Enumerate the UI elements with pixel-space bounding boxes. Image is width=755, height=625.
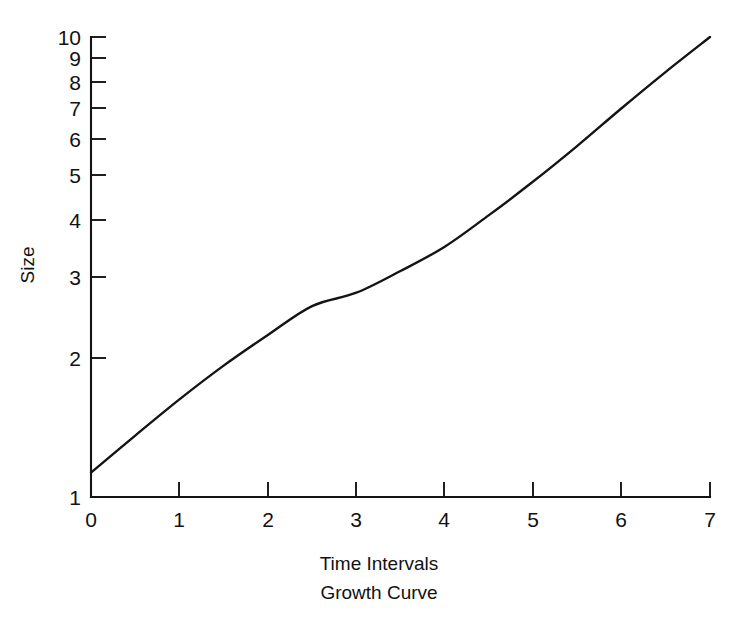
x-tick-label: 3 (350, 508, 362, 531)
y-tick-label: 10 (58, 26, 81, 49)
growth-curve-figure: 10 9 8 7 6 5 4 3 2 1 0 1 2 3 4 5 6 7 Siz… (0, 0, 755, 625)
y-tick-label: 2 (69, 347, 81, 370)
y-tick-label: 7 (69, 97, 81, 120)
x-tick-label: 2 (262, 508, 274, 531)
chart-background (0, 0, 755, 625)
x-axis-title: Time Intervals (320, 553, 439, 574)
y-tick-label: 9 (69, 47, 81, 70)
y-axis-title: Size (17, 247, 38, 284)
x-tick-label: 6 (615, 508, 627, 531)
y-tick-label: 6 (69, 128, 81, 151)
y-tick-label: 5 (69, 164, 81, 187)
y-tick-label: 3 (69, 266, 81, 289)
x-tick-label: 4 (438, 508, 450, 531)
growth-curve-chart: 10 9 8 7 6 5 4 3 2 1 0 1 2 3 4 5 6 7 Siz… (0, 0, 755, 625)
y-tick-label: 4 (69, 209, 81, 232)
x-tick-label: 7 (704, 508, 716, 531)
y-tick-label: 8 (69, 71, 81, 94)
x-tick-label: 1 (173, 508, 185, 531)
x-tick-label: 5 (527, 508, 539, 531)
chart-caption: Growth Curve (320, 582, 437, 603)
y-tick-label: 1 (69, 486, 81, 509)
x-tick-label: 0 (85, 508, 97, 531)
